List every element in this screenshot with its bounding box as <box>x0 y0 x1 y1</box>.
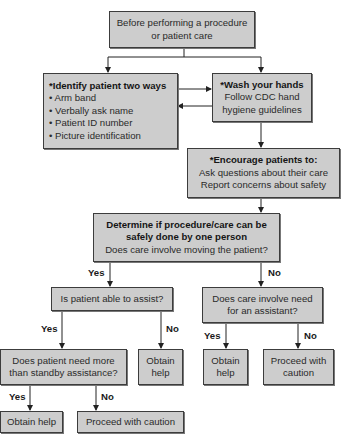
standby-line-1: Does patient need more <box>12 355 114 368</box>
assistant-line-2: for an assistant? <box>227 305 297 318</box>
need-assistant-box: Does care involve need for an assistant? <box>202 287 323 323</box>
identify-item-picture: • Picture identification <box>49 130 141 143</box>
identify-item-arm-band: • Arm band <box>49 92 96 105</box>
determine-question: Does care involve moving the patient? <box>105 244 268 257</box>
wash-hands-box: *Wash your hands Follow CDC hand hygiene… <box>212 73 312 122</box>
encourage-title: *Encourage patients to: <box>210 154 318 167</box>
determine-box: Determine if procedure/care can be safel… <box>93 213 280 262</box>
determine-title-2: safely done by one person <box>126 231 247 244</box>
start-line-1: Before performing a procedure <box>117 17 248 30</box>
wash-title: *Wash your hands <box>220 79 303 92</box>
assist-question: Is patient able to assist? <box>61 293 164 306</box>
assist-no-result-line-1: Obtain <box>146 355 174 368</box>
assistant-line-1: Does care involve need <box>212 293 312 306</box>
identify-item-patient-id: • Patient ID number <box>49 117 132 130</box>
start-box: Before performing a procedure or patient… <box>109 11 255 48</box>
identify-item-verbal-name: • Verbally ask name <box>49 105 133 118</box>
assistant-yes-result-line-1: Obtain <box>211 355 239 368</box>
encourage-line-1: Ask questions about their care <box>199 167 328 180</box>
assist-yes-label: Yes <box>41 323 58 334</box>
assistant-yes-obtain-help-box: Obtain help <box>203 349 248 385</box>
identify-patient-box: *Identify patient two ways • Arm band • … <box>43 73 178 149</box>
start-line-2: or patient care <box>151 30 212 43</box>
assistant-no-result-line-2: caution <box>283 367 314 380</box>
standby-line-2: than standby assistance? <box>9 367 117 380</box>
able-to-assist-box: Is patient able to assist? <box>51 287 173 311</box>
encourage-patients-box: *Encourage patients to: Ask questions ab… <box>187 148 340 198</box>
assist-no-obtain-help-box: Obtain help <box>138 349 183 385</box>
standby-no-label: No <box>101 391 114 402</box>
assistant-no-label: No <box>304 330 317 341</box>
wash-line-2: hygiene guidelines <box>222 104 301 117</box>
encourage-line-2: Report concerns about safety <box>201 179 326 192</box>
standby-no-result: Proceed with caution <box>86 416 175 429</box>
wash-line-1: Follow CDC hand <box>224 91 299 104</box>
assistant-yes-label: Yes <box>204 330 221 341</box>
standby-yes-label: Yes <box>9 391 26 402</box>
determine-no-label: No <box>268 267 281 278</box>
assist-no-result-line-2: help <box>151 367 169 380</box>
standby-yes-obtain-help-box: Obtain help <box>0 411 63 433</box>
assistant-no-proceed-box: Proceed with caution <box>263 349 334 385</box>
assistant-no-result-line-1: Proceed with <box>271 355 326 368</box>
standby-no-proceed-box: Proceed with caution <box>77 411 184 433</box>
standby-yes-result: Obtain help <box>7 416 56 429</box>
determine-yes-label: Yes <box>88 267 105 278</box>
assistant-yes-result-line-2: help <box>216 367 234 380</box>
standby-assistance-box: Does patient need more than standby assi… <box>0 349 127 385</box>
determine-title-1: Determine if procedure/care can be <box>106 219 267 232</box>
assist-no-label: No <box>166 323 179 334</box>
identify-title: *Identify patient two ways <box>49 80 166 93</box>
